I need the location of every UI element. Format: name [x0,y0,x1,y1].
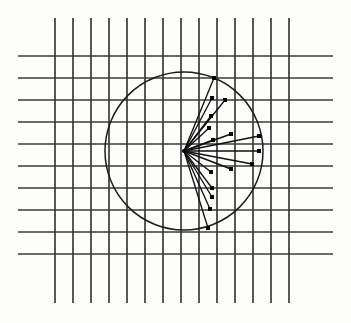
vector-endpoint-v3 [223,98,227,102]
vector-endpoint-v16 [206,226,210,230]
vector-endpoint-v10 [250,162,254,166]
vector-endpoint-v15 [208,207,212,211]
vector-endpoint-v8 [211,138,215,142]
vector-endpoint-v6 [229,132,233,136]
vector-endpoint-v5 [207,126,211,130]
paper-background [0,0,351,323]
vector-endpoint-v12 [209,170,213,174]
vector-endpoint-v4 [209,114,213,118]
vector-endpoint-v13 [210,186,214,190]
figure-container [0,0,351,323]
origin-marker-group [182,149,186,153]
origin-marker [182,149,186,153]
vector-endpoint-v1 [212,76,216,80]
vector-endpoint-v7 [257,134,261,138]
vector-endpoint-v9 [257,149,261,153]
vector-endpoint-v2 [210,96,214,100]
vector-endpoint-v14 [210,195,214,199]
vector-endpoint-v11 [229,167,233,171]
graph-paper-figure [0,0,351,323]
